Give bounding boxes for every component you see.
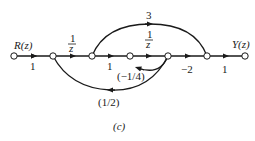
node-7 [242,53,248,59]
gain-half: (1/2) [98,96,120,109]
input-label: R(z) [13,39,33,52]
output-label: Y(z) [232,38,250,51]
figure-caption: (c) [113,120,126,133]
gain-n3-n4: 1 [107,60,113,72]
gain-n5-n6: −2 [181,63,193,75]
node-1 [11,53,17,59]
node-6 [204,53,210,59]
gain-n1-n2: 1 [30,60,36,72]
node-4 [127,53,133,59]
node-5 [165,53,171,59]
gain-minus-quarter: (−1/4) [117,70,145,83]
node-3 [89,53,95,59]
gain-3: 3 [146,9,152,21]
signal-flow-graph: R(z) Y(z) 1 1 z 1 1 z −2 1 3 (−1/4) (1/2… [0,0,255,141]
gain-n6-n7: 1 [222,63,228,75]
gain-n4-n5-den: z [145,38,151,50]
node-2 [50,53,56,59]
gain-n2-n3-den: z [68,42,74,54]
